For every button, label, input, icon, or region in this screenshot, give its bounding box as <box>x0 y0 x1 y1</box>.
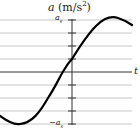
x-axis-label: t <box>134 65 138 76</box>
y-max-label: as <box>55 13 62 24</box>
y-min-label: −as <box>49 118 63 129</box>
y-axis-title: a (m/s2) <box>48 0 91 14</box>
acceleration-chart <box>0 0 140 134</box>
